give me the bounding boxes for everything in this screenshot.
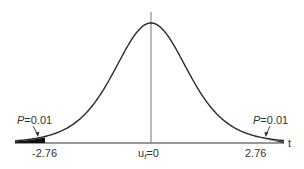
left-arrowhead-icon [36,132,40,137]
right-tail-label: P=0.01 [253,114,288,126]
left-tail-label: P=0.01 [17,114,52,126]
right-arrowhead-icon [265,132,269,137]
t-distribution-figure: P=0.01 P=0.01 -2.76 ut=0 2.76 t [0,0,304,169]
distribution-plot: P=0.01 P=0.01 -2.76 ut=0 2.76 t [0,0,304,169]
tick-label-center: ut=0 [138,147,159,161]
axis-label-t: t [288,137,291,149]
density-curve [15,23,284,141]
tick-label-right: 2.76 [245,147,266,159]
tick-label-left: -2.76 [32,147,57,159]
